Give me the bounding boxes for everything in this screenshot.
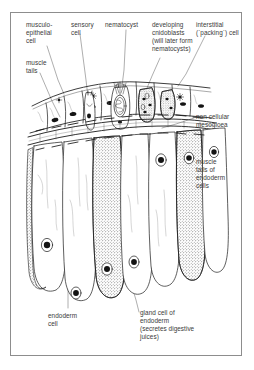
nematocyst-capsule: [111, 82, 130, 129]
endoderm-cell: [63, 138, 96, 301]
label-endoderm-cell: endoderm cell: [48, 312, 77, 328]
endoderm-layer: [27, 128, 229, 301]
label-developing-cnidoblasts: developing cnidoblasts (will later form …: [152, 21, 193, 53]
label-muscle-tails-endoderm: muscle tails of endoderm cells: [196, 158, 225, 190]
developing-cnidoblasts: [139, 88, 156, 122]
label-non-cellular-mesogloea: non cellular mesogloea: [196, 113, 229, 129]
label-musculo-epithelial-cell: musculo- epithelial cell: [26, 21, 52, 45]
label-sensory-cell: sensory cell: [71, 21, 94, 37]
label-interstitial-cell: interstitial (`packing`) cell: [196, 21, 239, 37]
endoderm-cell: [121, 134, 153, 294]
endoderm-cell: [32, 142, 66, 291]
endoderm-cell: [149, 132, 180, 286]
diagram-stage: musculo- epithelial cell sensory cell ne…: [0, 0, 254, 370]
ectoderm-layer: [30, 82, 212, 133]
endoderm-cell: [202, 128, 228, 272]
gland-cell-of-endoderm: [176, 130, 205, 280]
label-nematocyst: nematocyst: [105, 21, 138, 29]
label-muscle-tails: muscle tails: [26, 59, 47, 75]
label-gland-cell-of-endoderm: gland cell of endoderm (secretes digesti…: [140, 309, 194, 341]
